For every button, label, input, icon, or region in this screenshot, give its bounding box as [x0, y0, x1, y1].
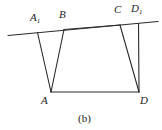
figure-caption: (b) [78, 113, 91, 124]
vertex-label-D1: D1 [131, 3, 142, 14]
segment-B-C [64, 25, 120, 30]
vertex-label-B: B [59, 9, 66, 20]
vertex-label-A1-subscript: 1 [37, 17, 41, 25]
geometry-figure: A1 B C D1 A D (b) [0, 0, 162, 130]
vertex-label-C: C [114, 4, 121, 15]
segment-B-A [51, 30, 64, 93]
vertex-label-D: D [140, 95, 148, 106]
figure-canvas [0, 0, 162, 130]
vertex-label-D1-subscript: 1 [139, 8, 143, 16]
segments-group [8, 22, 158, 93]
segment-A1-A [38, 33, 52, 93]
segment-C-D [120, 25, 139, 92]
vertex-label-A: A [41, 95, 48, 106]
vertex-label-A1: A1 [30, 12, 40, 23]
segment-D1-D [139, 24, 140, 93]
